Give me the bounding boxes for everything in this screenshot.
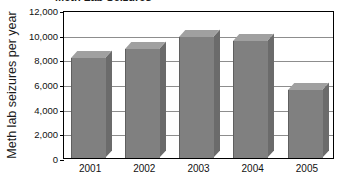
y-axis-tick-label: 0 xyxy=(53,154,58,165)
bar-top-face xyxy=(233,34,273,41)
chart-title-clipped: Meth Lab Seizures xyxy=(55,0,255,2)
plot-area xyxy=(63,11,334,159)
bar-top-face xyxy=(71,51,111,58)
bar-front-face xyxy=(71,58,106,158)
y-axis-tick-label: 10,000 xyxy=(29,30,58,41)
x-axis-tick-label: 2002 xyxy=(133,163,155,174)
bar xyxy=(125,49,159,158)
bar-chart-figure: Meth Lab Seizures Meth lab seizures per … xyxy=(0,0,347,182)
y-axis-tick-mark xyxy=(60,12,64,13)
bar-front-face xyxy=(179,37,214,158)
x-axis-tick-label: 2001 xyxy=(79,163,101,174)
x-axis-tick-label: 2004 xyxy=(242,163,264,174)
source-note-clip: Source: U.S. Drug Enforcement Administra xyxy=(336,0,347,182)
bar xyxy=(71,58,105,158)
bar-top-face xyxy=(288,83,328,90)
y-axis-tick-label: 2,000 xyxy=(34,129,58,140)
bar xyxy=(288,90,322,158)
y-axis-tick-label: 8,000 xyxy=(34,55,58,66)
bar-front-face xyxy=(233,41,268,158)
x-axis-tick-label: 2003 xyxy=(187,163,209,174)
y-axis-tick-mark xyxy=(60,135,64,136)
bar-top-face xyxy=(125,42,165,49)
bar xyxy=(179,37,213,158)
y-axis-tick-label: 12,000 xyxy=(29,6,58,17)
y-axis-tick-mark xyxy=(60,160,64,161)
bar xyxy=(233,41,267,158)
y-axis-tick-mark xyxy=(60,86,64,87)
bar-front-face xyxy=(125,49,160,158)
y-axis-tick-mark xyxy=(60,111,64,112)
y-axis-tick-mark xyxy=(60,61,64,62)
y-axis-tick-label: 4,000 xyxy=(34,104,58,115)
y-axis-tick-labels: 02,0004,0006,0008,00010,00012,000 xyxy=(14,0,62,182)
bar-top-face xyxy=(179,30,219,37)
y-axis-tick-label: 6,000 xyxy=(34,80,58,91)
x-axis-tick-label: 2005 xyxy=(296,163,318,174)
y-axis-tick-mark xyxy=(60,37,64,38)
bar-front-face xyxy=(288,90,323,158)
